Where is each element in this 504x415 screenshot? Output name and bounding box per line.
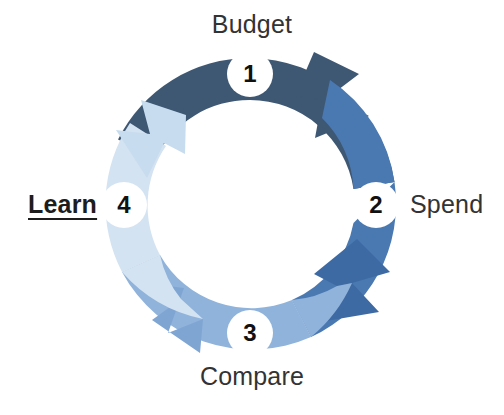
- cycle-node-3[interactable]: 3: [227, 310, 273, 356]
- cycle-label-budget: Budget: [0, 10, 504, 39]
- cycle-node-4-number: 4: [117, 191, 130, 219]
- cycle-label-spend: Spend: [410, 190, 483, 219]
- cycle-node-2-number: 2: [369, 191, 382, 219]
- cycle-label-compare: Compare: [0, 362, 504, 391]
- cycle-node-2[interactable]: 2: [353, 182, 399, 228]
- diagram-canvas: 1 2 3 4 Budget Spend Compare Learn: [0, 0, 504, 415]
- cycle-node-4[interactable]: 4: [101, 182, 147, 228]
- cycle-node-3-number: 3: [243, 319, 256, 347]
- cycle-label-learn: Learn: [28, 190, 97, 219]
- cycle-node-1-number: 1: [243, 60, 256, 88]
- cycle-node-1[interactable]: 1: [227, 51, 273, 97]
